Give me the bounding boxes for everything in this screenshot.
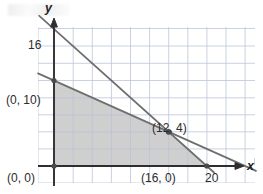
point-label-origin: (0, 0) [7, 172, 35, 184]
point-label-0-10: (0, 10) [6, 94, 41, 106]
point-label-12-4: (12, 4) [152, 122, 187, 134]
vertex-origin [51, 163, 56, 168]
x-axis-label: x [247, 160, 254, 173]
y-axis-label: y [45, 2, 52, 15]
vertex-0-10 [51, 78, 56, 83]
point-label-16-0: (16, 0) [141, 172, 176, 184]
y-axis-arrowhead [51, 18, 58, 27]
graph-figure: y x 16 20 (0, 10) (12, 4) (16, 0) (0, 0) [0, 0, 263, 194]
x-tick-label-20: 20 [205, 172, 218, 184]
vertex-16-0 [204, 163, 209, 168]
y-tick-label-16: 16 [28, 39, 41, 51]
